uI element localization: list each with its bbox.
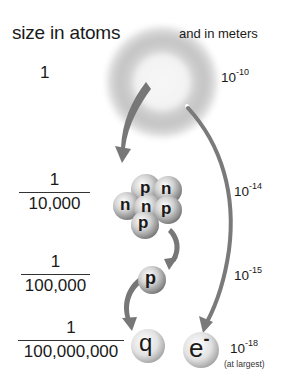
arrow-atom-to-electron (188, 108, 231, 333)
nucleon-label: n (120, 195, 130, 215)
quark-size-atoms: 1 100,000,000 (18, 319, 124, 361)
nucleon-label: n (161, 179, 171, 199)
fraction-bar (19, 192, 90, 193)
nucleus-size-atoms: 1 10,000 (19, 171, 90, 213)
fraction-bar (18, 340, 124, 341)
quark-size-meters: 10-18 (230, 341, 258, 356)
nucleon-label: p (138, 213, 148, 233)
atom-size-meters: 10-10 (221, 70, 249, 85)
electron-label: e- (189, 333, 209, 364)
proton-label: p (145, 268, 156, 289)
header-size-in-atoms: size in atoms (12, 22, 120, 44)
proton-size-atoms: 1 100,000 (21, 253, 90, 295)
nucleus-size-meters: 10-14 (234, 184, 262, 199)
fraction-bar (21, 274, 90, 275)
nucleon-label: p (161, 199, 171, 219)
atom-size-atoms: 1 (40, 63, 49, 83)
orbit-electron-dot (103, 60, 107, 64)
proton-size-meters: 10-15 (234, 268, 262, 283)
arrow-nucleus-to-proton (164, 228, 180, 270)
header-in-meters: and in meters (179, 26, 258, 41)
quark-label: q (139, 329, 152, 357)
nucleon-label: p (140, 178, 150, 198)
at-largest-note: (at largest) (224, 359, 265, 369)
